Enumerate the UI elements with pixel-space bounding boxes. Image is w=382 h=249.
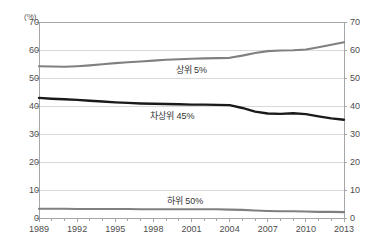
series-label-top: 상위 5% xyxy=(174,65,210,76)
cropped-footnote xyxy=(60,240,320,249)
x-axis-tick-label: 2007 xyxy=(248,224,288,234)
y-axis-tick-label-left: 40 xyxy=(9,101,39,111)
y-axis-tick-label-right: 30 xyxy=(350,129,380,139)
tick-label-layer: 7070606050504040303020201010001989199219… xyxy=(0,0,382,249)
y-axis-tick-label-right: 10 xyxy=(350,185,380,195)
x-axis-tick-label: 1995 xyxy=(95,224,135,234)
y-axis-tick-label-left: 50 xyxy=(9,73,39,83)
series-label-middle: 차상위 45% xyxy=(148,111,197,122)
series-label-bottom: 하위 50% xyxy=(165,196,206,207)
y-axis-tick-label-right: 60 xyxy=(350,45,380,55)
y-axis-tick-label-left: 10 xyxy=(9,185,39,195)
y-axis-tick-label-left: 0 xyxy=(9,213,39,223)
y-axis-tick-label-left: 20 xyxy=(9,157,39,167)
x-axis-tick-label: 2001 xyxy=(172,224,212,234)
x-axis-tick-label: 2013 xyxy=(324,224,364,234)
y-axis-tick-label-right: 40 xyxy=(350,101,380,111)
x-axis-tick-label: 1998 xyxy=(133,224,173,234)
y-axis-tick-label-right: 50 xyxy=(350,73,380,83)
x-axis-tick-label: 1989 xyxy=(19,224,59,234)
y-axis-tick-label-left: 60 xyxy=(9,45,39,55)
x-axis-tick-label: 1992 xyxy=(57,224,97,234)
y-axis-tick-label-right: 20 xyxy=(350,157,380,167)
chart-container: (%) 707060605050404030302020101000198919… xyxy=(0,0,382,249)
y-axis-tick-label-right: 0 xyxy=(350,213,380,223)
x-axis-tick-label: 2010 xyxy=(286,224,326,234)
y-axis-tick-label-right: 70 xyxy=(350,17,380,27)
x-axis-tick-label: 2004 xyxy=(210,224,250,234)
y-axis-tick-label-left: 30 xyxy=(9,129,39,139)
y-axis-tick-label-left: 70 xyxy=(9,17,39,27)
